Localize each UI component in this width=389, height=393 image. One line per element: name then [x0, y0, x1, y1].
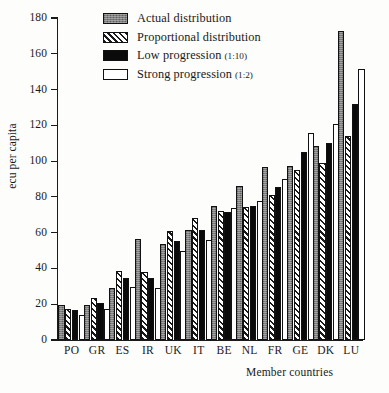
bar: [160, 244, 166, 340]
y-tick-mark: [51, 304, 58, 305]
y-tick-label: 60: [0, 227, 47, 239]
bar: [326, 143, 332, 340]
bar-group: [287, 18, 314, 340]
bar: [218, 211, 224, 340]
y-tick-label: 0: [0, 334, 47, 346]
legend-swatch-icon: [103, 32, 128, 43]
legend-label: Actual distribution: [137, 11, 231, 25]
bar-group: [338, 18, 365, 340]
bar: [58, 305, 64, 340]
bar: [352, 104, 358, 340]
y-tick-label: 80: [0, 191, 47, 203]
bar: [224, 212, 230, 340]
x-axis-title: Member countries: [246, 366, 333, 378]
y-tick-label: 140: [0, 84, 47, 96]
y-tick-mark: [51, 232, 58, 233]
bar: [123, 278, 129, 340]
legend-swatch-icon: [103, 13, 128, 24]
y-tick-mark: [51, 196, 58, 197]
x-axis-line: [57, 340, 363, 341]
bar: [243, 207, 249, 340]
bar-group: [313, 18, 340, 340]
bar: [167, 231, 173, 340]
legend-swatch-icon: [103, 69, 128, 80]
bar: [301, 152, 307, 340]
legend-item: Low progression(1:10): [103, 47, 261, 64]
bar: [345, 136, 351, 340]
x-tick-label: LU: [331, 344, 371, 356]
legend-swatch-icon: [103, 50, 128, 61]
y-tick-mark: [51, 339, 58, 340]
bar: [72, 310, 78, 340]
y-tick-label: 100: [0, 155, 47, 167]
bar: [116, 271, 122, 340]
y-tick-label: 120: [0, 119, 47, 131]
bar: [250, 206, 256, 340]
bar: [174, 241, 180, 340]
legend-item: Proportional distribution: [103, 29, 261, 46]
legend-sublabel: (1:10): [225, 51, 247, 61]
bar: [358, 69, 364, 340]
legend-label: Proportional distribution: [137, 30, 261, 44]
bar: [141, 272, 147, 340]
bar: [275, 187, 281, 340]
bar: [199, 230, 205, 340]
y-tick-mark: [51, 89, 58, 90]
y-tick-label: 40: [0, 262, 47, 274]
bar: [211, 206, 217, 340]
bar-group: [262, 18, 289, 340]
legend-label: Low progression: [137, 48, 222, 62]
legend-item: Actual distribution: [103, 10, 261, 27]
bar-chart-figure: ecu per capita Member countries 02040608…: [0, 0, 389, 393]
bar: [135, 239, 141, 340]
bar: [97, 303, 103, 340]
chart-legend: Actual distributionProportional distribu…: [103, 10, 261, 84]
bar: [338, 31, 344, 340]
bar: [236, 186, 242, 340]
bar: [148, 278, 154, 340]
bar: [262, 167, 268, 340]
bar: [319, 163, 325, 340]
legend-sublabel: (1:2): [235, 70, 253, 80]
bar: [84, 305, 90, 340]
y-tick-mark: [51, 17, 58, 18]
bar: [192, 218, 198, 340]
bar: [109, 288, 115, 340]
y-tick-label: 180: [0, 12, 47, 24]
bar: [313, 146, 319, 340]
legend-label: Strong progression: [137, 67, 232, 81]
y-tick-label: 20: [0, 298, 47, 310]
bar: [185, 230, 191, 340]
legend-item: Strong progression(1:2): [103, 66, 261, 83]
y-tick-mark: [51, 125, 58, 126]
bar: [294, 170, 300, 340]
y-tick-mark: [51, 161, 58, 162]
y-tick-label: 160: [0, 48, 47, 60]
bar: [65, 309, 71, 340]
bar-group: [58, 18, 85, 340]
bar: [269, 195, 275, 340]
y-tick-mark: [51, 268, 58, 269]
bar: [91, 298, 97, 340]
bar: [287, 166, 293, 340]
y-tick-mark: [51, 53, 58, 54]
